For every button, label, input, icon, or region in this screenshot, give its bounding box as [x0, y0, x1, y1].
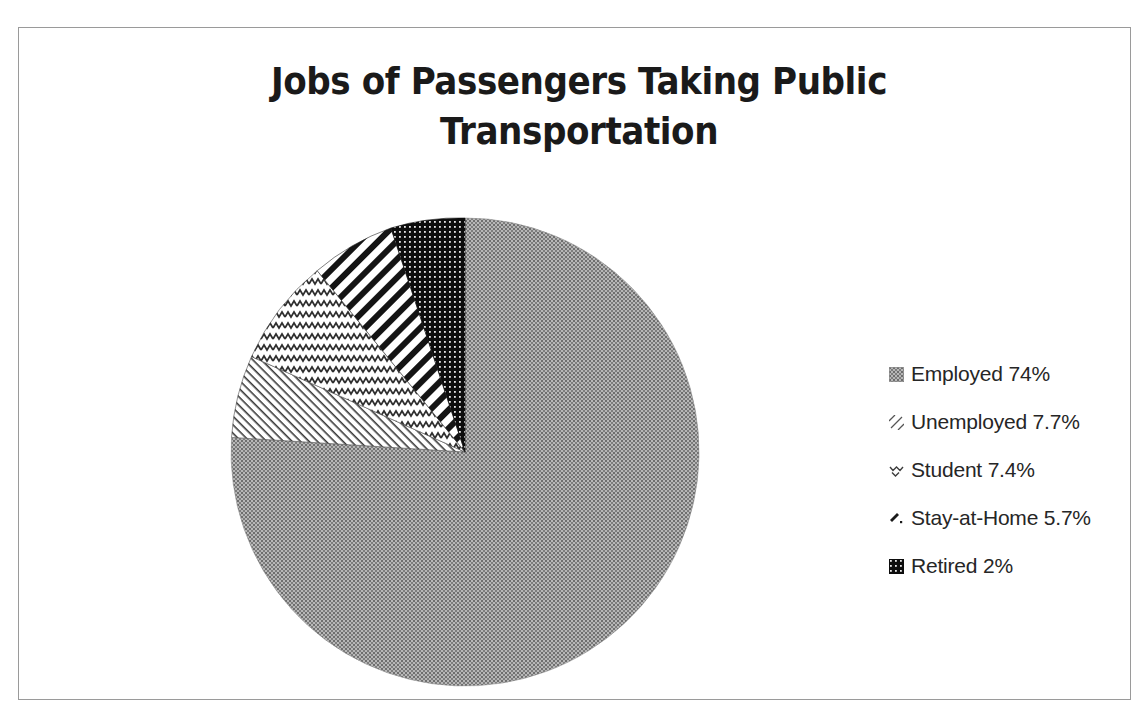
legend-item-stay-at-home[interactable]: Stay-at-Home 5.7%	[889, 494, 1139, 542]
legend-item-employed[interactable]: Employed 74%	[889, 350, 1139, 398]
zigzag-wave-swatch-icon	[889, 463, 904, 478]
thick-diagonal-stripe-swatch-icon	[889, 511, 904, 526]
pie-slices	[231, 218, 699, 686]
legend-item-student[interactable]: Student 7.4%	[889, 446, 1139, 494]
dark-checker-swatch-icon	[889, 559, 904, 574]
chart-legend: Employed 74% Unemployed 7.7%	[889, 350, 1139, 590]
pie-chart	[213, 200, 717, 704]
legend-item-unemployed[interactable]: Unemployed 7.7%	[889, 398, 1139, 446]
legend-item-retired[interactable]: Retired 2%	[889, 542, 1139, 590]
legend-label-student: Student 7.4%	[911, 458, 1035, 482]
chart-frame: Jobs of Passengers Taking Public Transpo…	[18, 27, 1131, 700]
legend-label-retired: Retired 2%	[911, 554, 1013, 578]
pie-chart-svg	[213, 200, 717, 704]
legend-label-unemployed: Unemployed 7.7%	[911, 410, 1080, 434]
legend-label-stay-at-home: Stay-at-Home 5.7%	[911, 506, 1091, 530]
chart-title-line-1: Jobs of Passengers Taking Public	[183, 56, 975, 106]
chart-title: Jobs of Passengers Taking Public Transpo…	[183, 56, 975, 156]
fine-diagonal-hatch-swatch-icon	[889, 415, 904, 430]
gray-dot-grid-swatch-icon	[889, 367, 904, 382]
legend-label-employed: Employed 74%	[911, 362, 1050, 386]
chart-title-line-2: Transportation	[183, 106, 975, 156]
